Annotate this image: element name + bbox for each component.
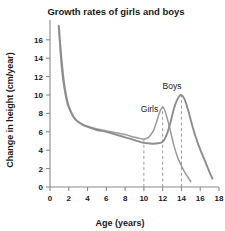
y-tick-label: 16 <box>34 36 43 45</box>
x-tick-label: 12 <box>158 194 167 203</box>
curve-boys <box>59 26 213 179</box>
data-series <box>58 26 212 181</box>
y-tick-label: 8 <box>39 109 44 118</box>
y-tick-label: 4 <box>39 146 44 155</box>
x-tick-label: 0 <box>48 194 53 203</box>
x-tick-label: 2 <box>67 194 72 203</box>
x-tick-label: 4 <box>85 194 90 203</box>
y-tick-label: 12 <box>34 73 43 82</box>
x-axis: 024681012141618 <box>48 187 224 203</box>
x-tick-label: 16 <box>196 194 205 203</box>
x-tick-label: 10 <box>139 194 148 203</box>
y-axis: 0246810121416 <box>34 20 50 192</box>
series-label-girls: Girls <box>141 104 158 114</box>
x-tick-label: 8 <box>123 194 128 203</box>
x-tick-label: 6 <box>104 194 109 203</box>
x-tick-label: 14 <box>177 194 186 203</box>
chart-title: Growth rates of girls and boys <box>47 6 184 17</box>
y-tick-label: 10 <box>34 91 43 100</box>
y-tick-label: 14 <box>34 54 43 63</box>
x-axis-title: Age (years) <box>95 218 144 228</box>
y-tick-label: 0 <box>39 183 44 192</box>
growth-rate-chart: Growth rates of girls and boys Change in… <box>0 0 225 231</box>
chart-canvas: Growth rates of girls and boys Change in… <box>0 0 225 231</box>
x-tick-label: 18 <box>215 194 224 203</box>
curve-girls <box>58 26 190 181</box>
y-tick-label: 6 <box>39 128 44 137</box>
y-tick-label: 2 <box>39 165 44 174</box>
y-axis-title: Change in height (cm/year) <box>5 52 15 168</box>
series-label-boys: Boys <box>163 81 182 91</box>
